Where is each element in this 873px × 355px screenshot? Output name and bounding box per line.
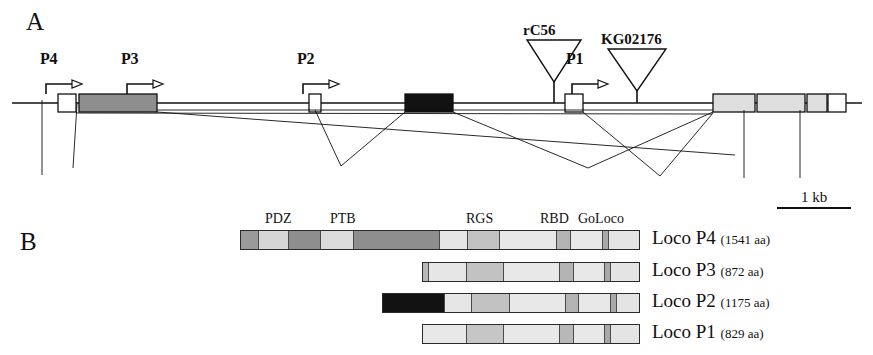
- exon-3d: [828, 94, 846, 112]
- protein-bar-loco-p1: [422, 324, 640, 344]
- domain-segment: [574, 325, 606, 343]
- protein-isoform-name: Loco P4: [652, 227, 716, 248]
- domain-segment: [579, 294, 611, 312]
- domain-segment: [500, 231, 558, 249]
- protein-name-loco-p2: Loco P2 (1175 aa): [652, 290, 770, 312]
- figure-root: A B P4P3P2P1 rC: [0, 0, 873, 355]
- domain-segment: [467, 263, 505, 281]
- domain-segment: [617, 294, 639, 312]
- promoter-label-p2: P2: [297, 50, 314, 68]
- domain-segment: [611, 325, 639, 343]
- domain-segment: [383, 294, 445, 312]
- promoter-arrow-layer: [46, 80, 608, 94]
- protein-bar-loco-p2: [382, 293, 640, 313]
- protein-isoform-name: Loco P3: [652, 259, 716, 280]
- domain-segment: [241, 231, 259, 249]
- domain-segment: [566, 294, 580, 312]
- exon-3c: [807, 94, 827, 112]
- insertion-triangle-kg02176: [608, 49, 666, 103]
- protein-length-aa: (1541 aa): [721, 232, 770, 247]
- domain-segment: [560, 263, 574, 281]
- domain-label-ptb: PTB: [330, 211, 356, 227]
- protein-name-loco-p4: Loco P4 (1541 aa): [652, 227, 770, 249]
- protein-length-aa: (1175 aa): [721, 295, 770, 310]
- domain-label-rgs: RGS: [466, 211, 493, 227]
- domain-segment: [560, 325, 574, 343]
- panel-b-letter: B: [20, 228, 37, 256]
- gene-diagram: [0, 0, 873, 200]
- domain-segment: [321, 231, 355, 249]
- protein-length-aa: (829 aa): [721, 326, 764, 341]
- promoter-arrow-p1: [572, 80, 608, 94]
- domain-label-pdz: PDZ: [265, 211, 291, 227]
- insertion-label-kg02176: KG02176: [601, 31, 662, 48]
- exon-black: [405, 94, 453, 112]
- domain-segment: [611, 263, 639, 281]
- domain-segment: [429, 263, 467, 281]
- domain-segment: [440, 231, 468, 249]
- domain-segment: [259, 231, 289, 249]
- promoter-label-p3: P3: [121, 50, 138, 68]
- scale-bar: 1 kb: [771, 190, 857, 209]
- exon-p4: [58, 94, 76, 112]
- protein-length-aa: (872 aa): [721, 264, 764, 279]
- domain-segment: [571, 231, 603, 249]
- domain-segment: [423, 325, 467, 343]
- protein-isoform-name: Loco P2: [652, 290, 716, 311]
- domain-segment: [574, 263, 606, 281]
- domain-segment: [354, 231, 440, 249]
- scale-bar-line: [777, 207, 851, 209]
- domain-segment: [504, 263, 559, 281]
- domain-segment: [468, 231, 500, 249]
- domain-segment: [472, 294, 510, 312]
- protein-bar-loco-p4: [240, 230, 640, 250]
- insertion-label-rc56: rC56: [523, 22, 556, 39]
- domain-segment: [467, 325, 505, 343]
- promoter-arrow-p2: [303, 80, 339, 94]
- insertion-triangle-layer: [527, 40, 666, 103]
- promoter-label-p4: P4: [40, 50, 57, 68]
- protein-name-loco-p1: Loco P1 (829 aa): [652, 321, 764, 343]
- scale-bar-label: 1 kb: [771, 190, 857, 205]
- domain-segment: [504, 325, 559, 343]
- exon-p1: [565, 94, 583, 112]
- exon-p3: [79, 94, 157, 112]
- protein-name-loco-p3: Loco P3 (872 aa): [652, 259, 764, 281]
- exon-3a: [713, 94, 755, 112]
- domain-label-goloco: GoLoco: [578, 211, 624, 227]
- domain-segment: [557, 231, 571, 249]
- domain-segment: [510, 294, 566, 312]
- domain-segment: [609, 231, 639, 249]
- exon-p2: [309, 94, 321, 112]
- domain-segment: [445, 294, 473, 312]
- domain-segment: [289, 231, 321, 249]
- exon-3b: [757, 94, 805, 112]
- promoter-label-p1: P1: [566, 50, 583, 68]
- promoter-arrow-p4: [46, 80, 82, 94]
- protein-isoform-name: Loco P1: [652, 321, 716, 342]
- protein-bar-loco-p3: [422, 262, 640, 282]
- domain-label-rbd: RBD: [540, 211, 569, 227]
- promoter-arrow-p3: [127, 80, 163, 94]
